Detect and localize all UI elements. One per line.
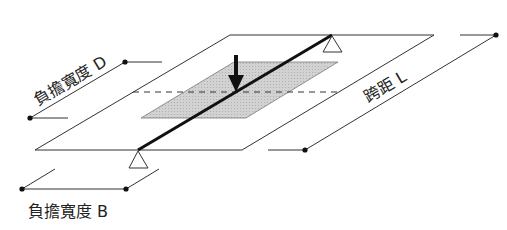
- label-load-width-d: 負擔寬度 D: [30, 52, 110, 110]
- support-bottom-icon: [129, 151, 148, 168]
- label-load-width-b: 負擔寬度 B: [28, 202, 108, 221]
- label-span-l: 跨距 L: [360, 67, 409, 107]
- tributary-load-diagram: 負擔寬度 D 跨距 L 負擔寬度 B: [0, 0, 507, 230]
- dimension-b: [19, 169, 159, 192]
